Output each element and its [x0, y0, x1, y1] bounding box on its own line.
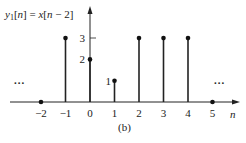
stem-marker — [88, 57, 93, 62]
ellipsis-left: ... — [14, 74, 25, 86]
y-axis-arrow-icon — [88, 6, 93, 14]
x-tick-label: 0 — [87, 107, 93, 119]
stem-marker — [112, 78, 117, 83]
stem-marker — [210, 100, 215, 105]
stem-marker — [137, 36, 142, 41]
x-tick-label: −1 — [60, 107, 72, 119]
x-tick-label: 2 — [136, 107, 142, 119]
labels: y1[n] = x[n − 2] n ... ... −2−1012345123 — [4, 8, 236, 120]
x-tick-label: 3 — [161, 107, 167, 119]
x-tick-label: 4 — [185, 107, 191, 119]
y-tick-label: 2 — [80, 53, 86, 65]
plot-title: y1[n] = x[n − 2] — [4, 8, 73, 22]
x-tick-label: −2 — [35, 107, 47, 119]
stem-marker — [39, 100, 44, 105]
figure-caption: (b) — [118, 121, 131, 133]
y-tick-label: 3 — [80, 32, 86, 44]
x-axis-arrow-icon — [232, 100, 240, 105]
stem-marker — [161, 36, 166, 41]
x-tick-label: 1 — [112, 107, 118, 119]
title-rest: [n] = x[n − 2] — [14, 8, 74, 20]
stems — [39, 36, 215, 105]
x-axis-label: n — [230, 108, 236, 120]
y-tick-label: 1 — [106, 75, 112, 87]
stem-marker — [63, 36, 68, 41]
ellipsis-right: ... — [214, 74, 225, 86]
x-tick-label: 5 — [210, 107, 216, 119]
stem-marker — [186, 36, 191, 41]
axes — [10, 6, 240, 105]
